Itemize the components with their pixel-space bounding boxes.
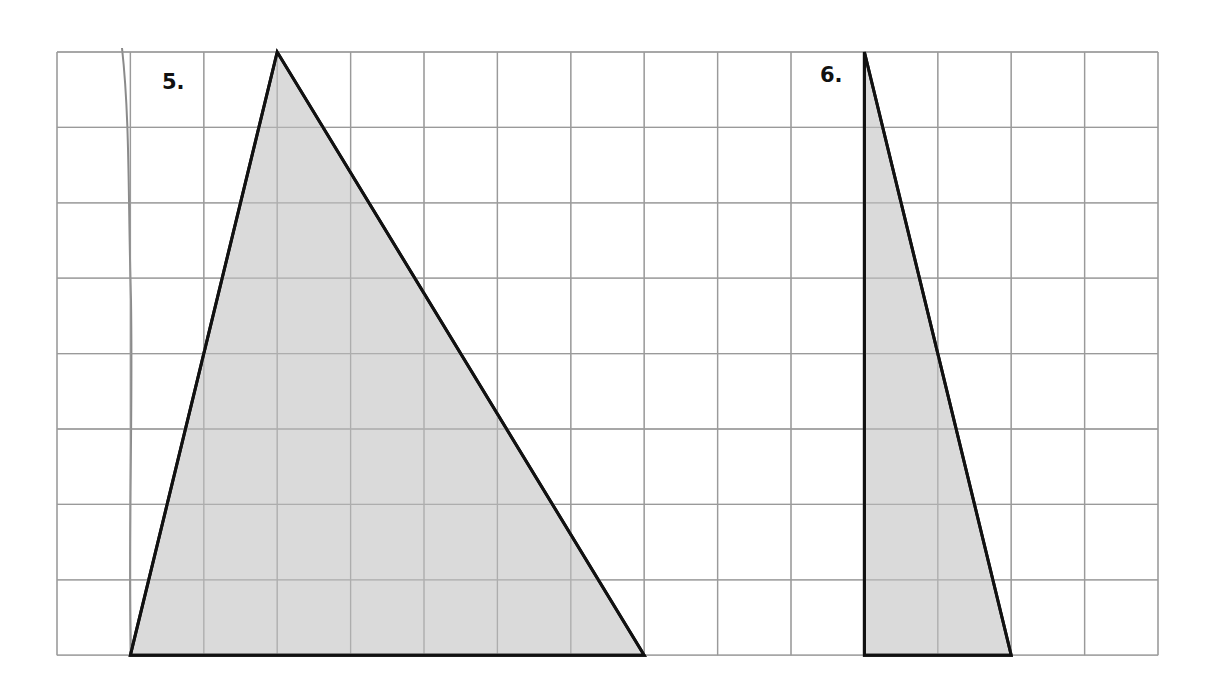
grid-worksheet xyxy=(0,0,1213,693)
problem-6-label: 6. xyxy=(820,63,843,87)
problem-5-label: 5. xyxy=(162,70,185,94)
